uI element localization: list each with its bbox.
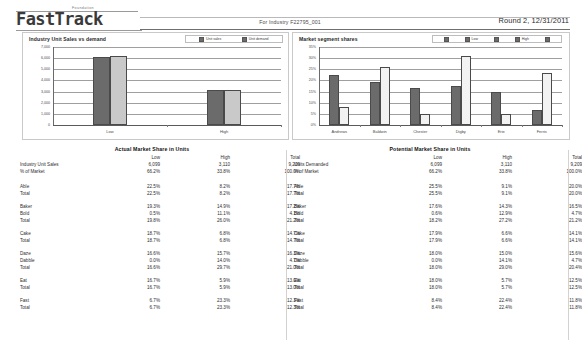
cell-low: 66.2% (116, 169, 160, 174)
data-row: Fast6.7%23.3%12.3% (18, 298, 286, 305)
chart-gridline (319, 69, 562, 70)
chart-bar (370, 82, 380, 125)
chart-bar (461, 56, 471, 125)
legend-swatch-icon (515, 37, 520, 42)
cell-low: 8.4% (398, 305, 442, 310)
data-row: Able22.5%8.2%17.7% (18, 184, 286, 191)
y-axis-tick-label: 15% (300, 90, 316, 94)
cell-low: 0.0% (116, 258, 160, 263)
summary-row: % of Market66.2%33.8%100.0% (18, 169, 286, 176)
row-label: Eat (294, 278, 301, 283)
cell-high: 5.7% (468, 285, 512, 290)
row-label: % of Market (20, 169, 45, 174)
legend-item-4 (545, 37, 550, 42)
cell-low: 0.0% (398, 258, 442, 263)
cell-low: 16.7% (116, 285, 160, 290)
cell-high: 14.9% (186, 204, 230, 209)
row-label: Total (20, 218, 30, 223)
cell-low: 18.7% (116, 231, 160, 236)
cell-low: 19.3% (116, 204, 160, 209)
y-axis-tick-label: 0% (300, 123, 316, 127)
summary-row: % of Market66.2%33.8%100.0% (292, 169, 568, 176)
cell-total: 21.2% (538, 218, 582, 223)
y-axis-tick-label: 30% (300, 56, 316, 60)
row-label: Fast (20, 298, 29, 303)
left-chart-legend: Unit sales Unit demand (185, 35, 283, 43)
cell-high: 26.0% (186, 218, 230, 223)
legend-swatch-icon (199, 37, 204, 42)
legend-swatch-icon (444, 37, 449, 42)
cell-total: 9,209 (538, 162, 582, 167)
y-axis-tick-label: 2,000 (30, 101, 50, 105)
cell-high: 15.0% (468, 251, 512, 256)
data-row: Eat18.0%5.7%12.5% (292, 278, 568, 285)
cell-high: 5.9% (186, 285, 230, 290)
chart-bar (329, 75, 339, 125)
market-segment-shares-chart-panel: Market segment shares Low High 35%30%25%… (292, 32, 570, 140)
x-axis-tick-label: Low (84, 129, 136, 134)
chart-gridline (319, 92, 562, 93)
data-row: Dabble0.0%14.1%4.7% (292, 258, 568, 265)
cell-total: 20.0% (538, 184, 582, 189)
y-axis-tick-label: 0 (30, 123, 50, 127)
cell-high: 5.7% (468, 278, 512, 283)
data-row: Total17.9%6.6%14.1% (292, 238, 568, 245)
chart-gridline (319, 80, 562, 81)
cell-high: 15.7% (186, 251, 230, 256)
potential-table-title: Potential Market Share in Units (292, 146, 568, 152)
data-row: Total18.2%27.2%21.2% (292, 218, 568, 225)
row-label: Able (294, 184, 303, 189)
cell-high: 22.4% (468, 305, 512, 310)
cell-high: 29.7% (186, 265, 230, 270)
cell-total: 20.4% (538, 265, 582, 270)
industry-label: For Industry F22795_001 (195, 19, 385, 25)
cell-low: 6.7% (116, 298, 160, 303)
legend-item-2 (494, 37, 499, 42)
cell-high: 23.3% (186, 298, 230, 303)
legend-swatch-icon (494, 37, 499, 42)
y-axis-tick-label: 1,000 (30, 112, 50, 116)
legend-label: High (522, 37, 529, 41)
row-label: Total (20, 285, 30, 290)
cell-high: 6.6% (468, 238, 512, 243)
row-label: Baker (294, 204, 306, 209)
row-label: Bold (20, 211, 29, 216)
chart-bar (339, 107, 349, 125)
data-row: Bold0.6%12.9%4.7% (292, 211, 568, 218)
cell-high: 6.8% (186, 238, 230, 243)
chart-gridline (53, 47, 281, 48)
fasttrack-logo: Foundation FastTrack (10, 7, 140, 31)
cell-total: 14.1% (538, 238, 582, 243)
legend-item-0 (444, 37, 449, 42)
chart-gridline (319, 58, 562, 59)
cell-high: 8.2% (186, 191, 230, 196)
cell-total: 14.1% (538, 231, 582, 236)
chart-bar (491, 92, 501, 125)
right-chart-plot-area: 35%30%25%20%15%10%5%0%AndrewsBaldwinChes… (319, 47, 562, 125)
row-label: Cake (294, 231, 305, 236)
header-divider-bottom (140, 29, 570, 30)
row-label: Total (20, 305, 30, 310)
cell-total: 4.7% (538, 211, 582, 216)
x-axis-tick-mark (167, 125, 168, 127)
report-header: Foundation FastTrack For Industry F22795… (0, 4, 575, 32)
legend-label: Unit demand (249, 37, 269, 41)
chart-gridline (319, 47, 562, 48)
x-axis-tick-mark (441, 125, 442, 127)
chart-bar (420, 114, 430, 125)
right-chart-title: Market segment shares (299, 36, 358, 42)
row-label: Total (20, 265, 30, 270)
data-row: Able25.5%9.1%20.0% (292, 184, 568, 191)
row-label: Industry Unit Sales (20, 162, 59, 167)
chart-bar (532, 110, 542, 125)
x-axis-tick-mark (562, 125, 563, 127)
data-row: Total25.5%9.1%20.0% (292, 191, 568, 198)
cell-high: 3,110 (468, 162, 512, 167)
data-row: Dabble0.0%14.0%4.7% (18, 258, 286, 265)
data-row: Total16.7%5.9%13.0% (18, 285, 286, 292)
cell-low: Low (116, 155, 160, 160)
y-axis-tick-label: 35% (300, 45, 316, 49)
chart-bar (380, 67, 390, 125)
data-row: Bold0.5%11.1%4.1% (18, 211, 286, 218)
